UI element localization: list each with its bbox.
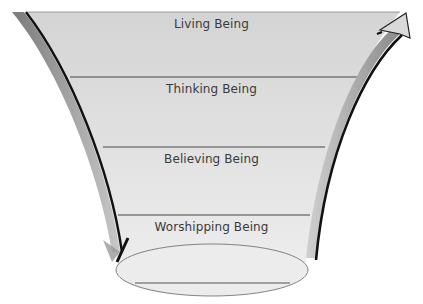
level-label-living: Living Being	[0, 17, 423, 31]
level-label-worshipping: Worshipping Being	[0, 220, 423, 234]
funnel-diagram: Living Being Thinking Being Believing Be…	[0, 0, 423, 304]
level-label-believing: Believing Being	[0, 152, 423, 166]
level-label-thinking: Thinking Being	[0, 82, 423, 96]
